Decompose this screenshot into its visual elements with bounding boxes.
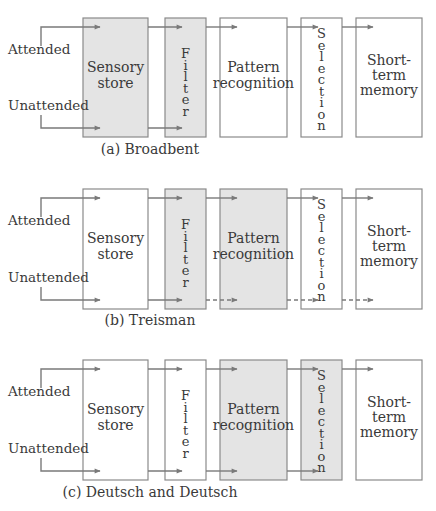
panel-caption: (a) Broadbent [101,141,200,157]
panel-treisman: SensorystorePatternrecognitionShort-term… [7,189,422,328]
panel-deutsch-and-deutsch: SensorystorePatternrecognitionShort-term… [7,360,422,500]
panel-caption: (c) Deutsch and Deutsch [63,484,238,500]
sensory-store-label: store [97,246,133,262]
filter-label: r [182,275,189,290]
unattended-input-label: Unattended [8,269,89,285]
short-term-memory-label: memory [360,82,418,98]
short-term-memory-label: memory [360,253,418,269]
sensory-store-label: store [97,417,133,433]
panel-caption: (b) Treisman [105,312,196,328]
selection-label: n [317,289,326,304]
attended-input-label: Attended [7,212,71,228]
short-term-memory-label: memory [360,424,418,440]
sensory-store-label: store [97,75,133,91]
panel-broadbent: SensorystorePatternrecognitionShort-term… [7,18,422,157]
attended-input-label: Attended [7,383,71,399]
unattended-input-label: Unattended [8,440,89,456]
unattended-input-label: Unattended [8,97,89,113]
pattern-recognition-label: Pattern [227,401,279,417]
selection-label: n [317,460,326,475]
pattern-recognition-label: Pattern [227,59,279,75]
attention-models-diagram: SensorystorePatternrecognitionShort-term… [0,0,436,511]
diagram-canvas: SensorystorePatternrecognitionShort-term… [0,0,436,511]
short-term-memory-label: Short- [367,52,411,68]
short-term-memory-label: term [372,409,406,425]
attended-input-label: Attended [7,41,71,57]
pattern-recognition-label: Pattern [227,230,279,246]
sensory-store-label: Sensory [87,401,144,417]
selection-label: n [317,118,326,133]
filter-label: r [182,104,189,119]
sensory-store-label: Sensory [87,59,144,75]
pattern-recognition-label: recognition [213,75,294,91]
sensory-store-label: Sensory [87,230,144,246]
short-term-memory-label: term [372,67,406,83]
pattern-recognition-label: recognition [213,417,294,433]
short-term-memory-label: Short- [367,223,411,239]
filter-label: r [182,446,189,461]
pattern-recognition-label: recognition [213,246,294,262]
short-term-memory-label: term [372,238,406,254]
short-term-memory-label: Short- [367,394,411,410]
